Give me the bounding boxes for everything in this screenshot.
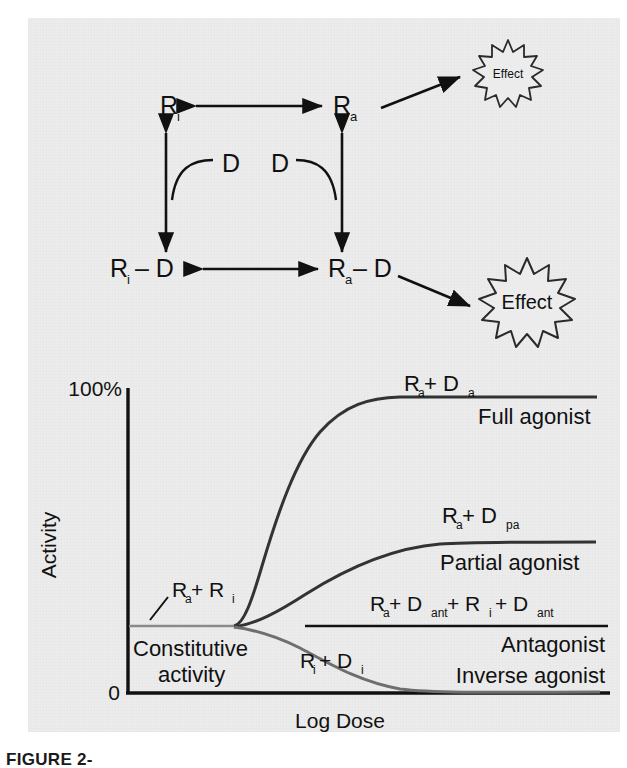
drug-label-left: D — [222, 149, 240, 177]
label-antag-sub4: ant — [537, 606, 554, 620]
node-ri-main: R — [160, 91, 178, 119]
label-antag-mid3: + D — [495, 592, 528, 615]
effect-burst-small: Effect — [473, 40, 543, 107]
label-full-agonist: Full agonist — [478, 404, 591, 429]
chart-x-axis-label: Log Dose — [295, 709, 385, 732]
label-constitutive-line2: activity — [158, 662, 225, 687]
arc-drug-left — [172, 160, 213, 200]
diagram-node-inactive-receptor: R i — [160, 91, 180, 124]
label-partial-agonist-formula: R a + D pa — [442, 503, 520, 532]
label-inv-sub2: i — [361, 663, 364, 677]
label-partial-mid: + D — [462, 503, 497, 528]
label-inverse-agonist: Inverse agonist — [456, 663, 605, 688]
label-ra-ri-mid: + R — [191, 578, 224, 601]
label-antagonist-formula: R a + D ant + R i + D ant — [370, 592, 554, 620]
label-constitutive-line1: Constitutive — [133, 636, 248, 661]
chart: 100% 0 Activity Log Dose R a + R i Const… — [37, 371, 610, 732]
label-partial-sub2: pa — [506, 518, 520, 532]
node-ra-d-main: R — [328, 254, 346, 282]
label-antag-sub3: i — [489, 606, 492, 620]
figure-caption: FIGURE 2- — [6, 750, 621, 768]
label-constitutive-formula: R a + R i — [172, 578, 235, 606]
arrow-rad-to-effect — [398, 276, 470, 306]
label-full-mid: + D — [424, 371, 459, 396]
node-ra-d-tail: – D — [353, 254, 392, 282]
label-inv-sub1: i — [313, 663, 316, 677]
node-ri-d-subscript: i — [127, 272, 130, 287]
node-ri-d-tail: – D — [135, 254, 174, 282]
label-ra-ri-sub-i: i — [232, 592, 235, 606]
label-inverse-agonist-formula: R i + D i — [300, 649, 364, 677]
node-ri-d-main: R — [110, 254, 128, 282]
arc-drug-right — [296, 160, 336, 200]
chart-ytick-top: 100% — [68, 377, 122, 400]
label-antag-mid2: + R — [447, 592, 480, 615]
node-ra-subscript: a — [350, 109, 358, 124]
chart-ytick-bottom: 0 — [108, 681, 120, 704]
effect-burst-large: Effect — [479, 258, 575, 347]
node-ra-main: R — [333, 91, 351, 119]
diagram-node-active-receptor: R a — [333, 91, 358, 124]
diagram-node-inactive-complex: R i – D — [110, 254, 174, 287]
leader-line-constitutive — [150, 597, 168, 620]
chart-y-axis-label: Activity — [37, 511, 60, 578]
figure-root: R i R a R i – D R a – D D D Effect — [0, 0, 627, 768]
effect-small-label: Effect — [493, 67, 524, 81]
label-full-sub2: a — [468, 386, 475, 400]
diagram-node-active-complex: R a – D — [328, 254, 392, 287]
arrow-ra-to-effect — [381, 77, 460, 108]
label-antag-mid: + D — [389, 592, 422, 615]
label-partial-agonist: Partial agonist — [440, 550, 579, 575]
label-antagonist: Antagonist — [501, 632, 605, 657]
effect-large-label: Effect — [502, 291, 553, 313]
label-inv-mid: + D — [319, 649, 352, 672]
node-ra-d-subscript: a — [345, 272, 353, 287]
figure-graphics: R i R a R i – D R a – D D D Effect — [0, 0, 627, 768]
label-antag-sub2: ant — [431, 606, 448, 620]
node-ri-subscript: i — [177, 109, 180, 124]
drug-label-right: D — [271, 149, 289, 177]
